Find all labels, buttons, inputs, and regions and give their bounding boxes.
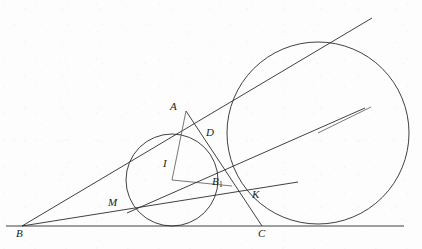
geometry-canvas xyxy=(0,0,422,249)
excircle-radius xyxy=(318,107,371,133)
segment-A-I xyxy=(172,111,186,180)
segment-I-B1 xyxy=(172,180,232,186)
point-label-B: B xyxy=(16,228,23,239)
point-label-I: I xyxy=(163,158,167,169)
point-label-B1: B1 xyxy=(212,176,222,187)
ray-B-through-A-tangent xyxy=(22,18,372,226)
cevian-A-to-C xyxy=(186,111,262,226)
point-label-K: K xyxy=(252,189,259,200)
point-label-D: D xyxy=(206,127,214,138)
geometry-figure: A B C D I M K B1 xyxy=(0,0,422,249)
point-label-A: A xyxy=(170,101,177,112)
point-label-M: M xyxy=(108,197,117,208)
point-label-C: C xyxy=(258,228,265,239)
